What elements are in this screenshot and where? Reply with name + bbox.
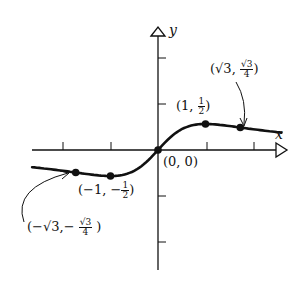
x-axis-arrow-icon [276, 143, 287, 157]
data-point [72, 169, 80, 177]
annotation-arrow-negsqrt3 [22, 173, 68, 222]
data-point [202, 120, 210, 128]
origin-label: (0, 0) [163, 155, 198, 168]
y-axis-arrow-icon [151, 27, 165, 36]
min-point-label: (−1, −12) [78, 181, 134, 201]
data-point [107, 172, 115, 180]
neg-sqrt3-point-label: (−√3,− √34 ) [27, 218, 101, 238]
data-point [154, 146, 162, 154]
sqrt3-point-label: (√3, √34) [210, 60, 258, 80]
max-point-label: (1, 12) [176, 97, 210, 117]
y-axis-label: y [169, 22, 177, 38]
plot-area [0, 0, 301, 281]
x-axis-label: x [275, 126, 283, 142]
annotation-arrow-sqrt3 [236, 82, 245, 124]
